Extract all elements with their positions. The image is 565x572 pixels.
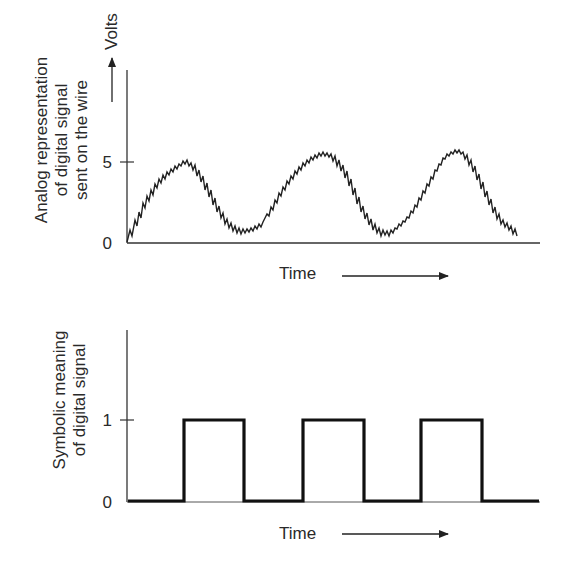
analog-waveform — [127, 150, 517, 242]
bottom-ylabel-line-1: Symbolic meaning — [50, 331, 69, 470]
top-ylabel-line-1: Analog representation — [32, 57, 51, 223]
top-ylabel: Analog representation of digital signal … — [32, 57, 91, 223]
signal-diagram: Analog representation of digital signal … — [0, 0, 565, 572]
top-ytick-5: 5 — [103, 153, 112, 172]
top-xlabel: Time — [279, 264, 316, 283]
svg-text:of digital signal: of digital signal — [52, 84, 71, 196]
top-ylabel-line-3: sent on the wire — [72, 80, 91, 200]
svg-text:of digital signal: of digital signal — [70, 344, 89, 456]
top-ylabel-line-2: of digital signal — [52, 84, 71, 196]
digital-square-wave — [128, 420, 539, 501]
top-panel: Analog representation of digital signal … — [32, 13, 540, 283]
svg-text:Analog representation: Analog representation — [32, 57, 51, 223]
bottom-ytick-1: 1 — [103, 411, 112, 430]
bottom-ylabel-line-2: of digital signal — [70, 344, 89, 456]
top-ytick-0: 0 — [103, 234, 112, 253]
bottom-xlabel: Time — [279, 524, 316, 543]
bottom-ylabel: Symbolic meaning of digital signal — [50, 331, 89, 470]
bottom-panel: Symbolic meaning of digital signal 1 0 T… — [50, 330, 540, 543]
volts-label: Volts — [102, 13, 121, 50]
svg-text:Symbolic meaning: Symbolic meaning — [50, 331, 69, 470]
svg-text:sent on the wire: sent on the wire — [72, 80, 91, 200]
bottom-ytick-0: 0 — [103, 493, 112, 512]
